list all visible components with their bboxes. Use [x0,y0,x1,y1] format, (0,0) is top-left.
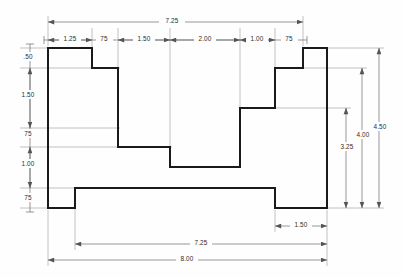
dim-left-seg-0-label: .50 [23,53,33,60]
dim-left-seg-3-label: 1.00 [21,160,34,167]
dim-left-seg-2-label: 75 [24,130,32,137]
dim-right-325-label: 3.25 [340,143,353,150]
dim-top-seg-0-label: 1.25 [63,35,76,42]
dim-top-seg-4-label: 1.00 [250,35,263,42]
dim-top-seg-2-label: 1.50 [137,35,150,42]
dim-top-chain: 1.25 75 1.50 2.00 1.00 75 [44,34,307,44]
drawing-sheet: 7.25 1.25 75 1.50 2.00 1.00 [0,0,402,278]
dim-bottom: 1.50 7.25 8.00 [48,220,327,263]
dim-top-seg-1-label: 75 [100,35,108,42]
technical-drawing-canvas: 7.25 1.25 75 1.50 2.00 1.00 [0,0,402,278]
dim-left-seg-1-label: 1.50 [21,91,34,98]
dim-left-seg-4-label: 75 [24,194,32,201]
dim-bottom-150-label: 1.50 [294,221,307,228]
dim-bottom-800-label: 8.00 [180,255,193,262]
dim-top-seg-5-label: 75 [285,35,293,42]
extension-lines [20,16,384,266]
dim-right-450-label: 4.50 [373,123,386,130]
dim-top-overall-label: 7.25 [165,17,178,24]
dim-bottom-725-label: 7.25 [194,239,207,246]
dim-top-seg-3-label: 2.00 [198,35,211,42]
dim-right-400-label: 4.00 [356,131,369,138]
dim-top-overall: 7.25 [48,16,303,25]
dim-right-chain: 3.25 4.00 4.50 [336,48,391,208]
